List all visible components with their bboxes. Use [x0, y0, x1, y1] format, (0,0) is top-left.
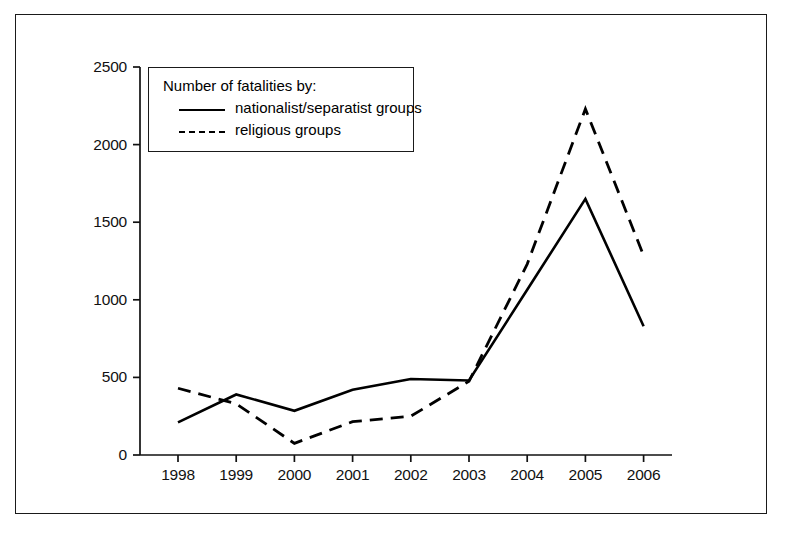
y-axis-tick-label: 0 [85, 446, 127, 464]
legend-swatch-dashed-line-icon [179, 131, 225, 133]
figure-root: 05001000150020002500 1998199920002001200… [0, 0, 785, 534]
x-axis-tick-label: 1998 [161, 466, 195, 484]
x-axis-tick-label: 2006 [627, 466, 661, 484]
legend-entry-label: nationalist/separatist groups [235, 99, 422, 116]
x-axis-tick-label: 1999 [219, 466, 253, 484]
x-axis-tick-label: 2000 [278, 466, 312, 484]
chart-legend: Number of fatalities by: nationalist/sep… [148, 67, 414, 152]
x-axis-tick-label: 2002 [394, 466, 428, 484]
y-axis-tick-marks [133, 67, 140, 455]
x-axis-tick-label: 2005 [569, 466, 603, 484]
legend-entry-label: religious groups [235, 121, 341, 138]
y-axis-tick-label: 1000 [85, 291, 127, 309]
x-axis-tick-label: 2001 [336, 466, 370, 484]
legend-title: Number of fatalities by: [163, 77, 316, 94]
y-axis-tick-label: 2500 [85, 58, 127, 76]
x-axis-tick-label: 2004 [510, 466, 544, 484]
series-line-religious-groups [178, 109, 644, 443]
y-axis-tick-label: 500 [85, 368, 127, 386]
y-axis-tick-label: 2000 [85, 136, 127, 154]
x-axis-tick-label: 2003 [452, 466, 486, 484]
legend-swatch-solid-line-icon [179, 109, 225, 111]
x-axis-tick-marks [178, 455, 644, 462]
series-line-nationalist-separatist-groups [178, 199, 644, 422]
y-axis-tick-label: 1500 [85, 213, 127, 231]
